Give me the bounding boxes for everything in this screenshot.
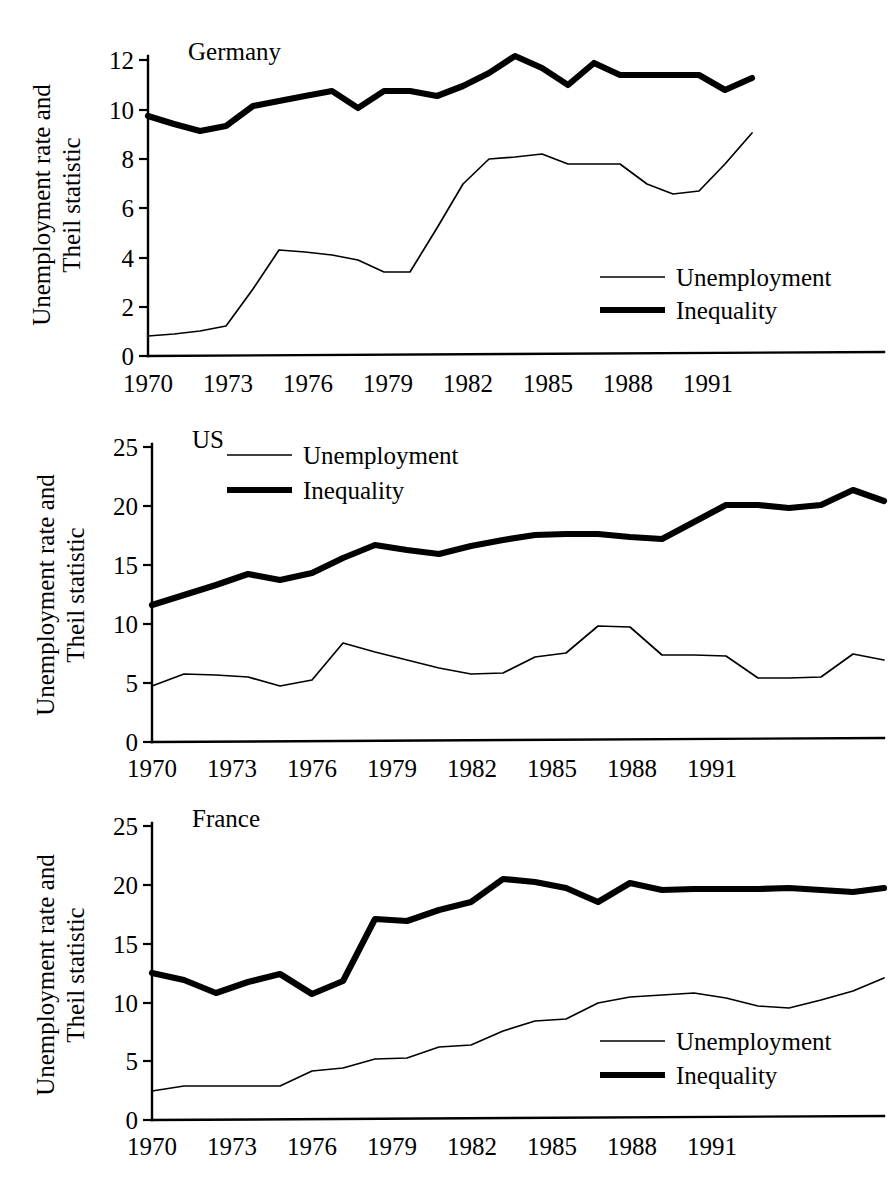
x-tick-label: 1985 (527, 1133, 577, 1160)
chart-panel-germany: 12 10 8 6 4 2 0 1970 1973 1976 1979 1982… (0, 0, 896, 400)
germany-y-tick-labels: 12 10 8 6 4 2 0 (109, 47, 135, 370)
germany-series-inequality (148, 56, 752, 131)
x-tick-label: 1973 (203, 370, 253, 397)
chart-panel-us: 25 20 15 10 5 0 1970 1973 1976 1979 1982… (0, 400, 896, 800)
france-x-axis (152, 1116, 884, 1120)
y-tick-label: 20 (113, 872, 138, 899)
legend-label-unemployment: Unemployment (676, 264, 832, 291)
x-tick-label: 1979 (367, 755, 417, 782)
chart-panel-france: 25 20 15 10 5 0 1970 1973 1976 1979 1982… (0, 795, 896, 1204)
y-axis-label-line1: Unemployment rate and (32, 854, 59, 1096)
legend-label-inequality: Inequality (303, 477, 405, 504)
panel-title-us: US (192, 426, 224, 453)
us-plot-svg: 25 20 15 10 5 0 1970 1973 1976 1979 1982… (0, 400, 896, 800)
france-series-inequality (152, 879, 884, 994)
us-legend: Unemployment Inequality (227, 442, 459, 504)
x-tick-label: 1970 (127, 1133, 177, 1160)
legend-label-unemployment: Unemployment (676, 1028, 832, 1055)
legend-label-inequality: Inequality (676, 1062, 778, 1089)
y-tick-label: 6 (122, 195, 135, 222)
us-x-tick-labels: 1970 1973 1976 1979 1982 1985 1988 1991 (127, 755, 737, 782)
y-tick-label: 0 (126, 1107, 139, 1134)
y-tick-label: 5 (126, 670, 139, 697)
france-plot-svg: 25 20 15 10 5 0 1970 1973 1976 1979 1982… (0, 795, 896, 1204)
y-tick-label: 10 (109, 97, 134, 124)
germany-legend: Unemployment Inequality (600, 264, 832, 324)
x-tick-label: 1985 (523, 370, 573, 397)
x-tick-label: 1985 (527, 755, 577, 782)
y-tick-label: 10 (113, 990, 138, 1017)
triple-line-chart-figure: 12 10 8 6 4 2 0 1970 1973 1976 1979 1982… (0, 0, 896, 1204)
x-tick-label: 1976 (283, 370, 333, 397)
us-y-axis-label: Unemployment rate and Theil statistic (32, 474, 89, 716)
germany-x-tick-labels: 1970 1973 1976 1979 1982 1985 1988 1991 (123, 370, 733, 397)
france-y-axis-label: Unemployment rate and Theil statistic (32, 854, 89, 1096)
germany-y-axis-label: Unemployment rate and Theil statistic (28, 84, 85, 326)
x-tick-label: 1982 (447, 755, 497, 782)
y-tick-label: 12 (109, 47, 134, 74)
y-tick-label: 25 (113, 813, 138, 840)
us-series-unemployment (152, 626, 884, 686)
y-tick-label: 4 (122, 245, 135, 272)
x-tick-label: 1991 (687, 755, 737, 782)
panel-title-germany: Germany (188, 38, 282, 65)
y-tick-label: 2 (122, 294, 135, 321)
x-tick-label: 1979 (367, 1133, 417, 1160)
x-tick-label: 1976 (287, 1133, 337, 1160)
y-tick-label: 0 (122, 343, 135, 370)
panel-title-france: France (192, 805, 260, 832)
x-tick-label: 1970 (123, 370, 173, 397)
y-axis-label-line2: Theil statistic (62, 907, 89, 1042)
y-axis-label-line2: Theil statistic (58, 137, 85, 272)
y-tick-label: 5 (126, 1048, 139, 1075)
y-axis-label-line1: Unemployment rate and (32, 474, 59, 716)
x-tick-label: 1970 (127, 755, 177, 782)
y-tick-label: 15 (113, 552, 138, 579)
x-tick-label: 1982 (443, 370, 493, 397)
x-tick-label: 1982 (447, 1133, 497, 1160)
x-tick-label: 1973 (207, 1133, 257, 1160)
x-tick-label: 1976 (287, 755, 337, 782)
y-tick-label: 8 (122, 146, 135, 173)
legend-label-inequality: Inequality (676, 297, 778, 324)
germany-y-ticks (139, 60, 148, 356)
y-axis-label-line2: Theil statistic (62, 527, 89, 662)
france-x-tick-labels: 1970 1973 1976 1979 1982 1985 1988 1991 (127, 1133, 737, 1160)
us-series-inequality (152, 490, 884, 605)
y-tick-label: 25 (113, 434, 138, 461)
x-tick-label: 1991 (687, 1133, 737, 1160)
germany-plot-svg: 12 10 8 6 4 2 0 1970 1973 1976 1979 1982… (0, 0, 896, 400)
x-tick-label: 1991 (683, 370, 733, 397)
legend-label-unemployment: Unemployment (303, 442, 459, 469)
x-tick-label: 1988 (607, 1133, 657, 1160)
us-y-ticks (143, 447, 152, 742)
y-tick-label: 20 (113, 493, 138, 520)
y-tick-label: 15 (113, 931, 138, 958)
y-tick-label: 10 (113, 611, 138, 638)
us-x-axis (152, 738, 884, 742)
x-tick-label: 1973 (207, 755, 257, 782)
x-tick-label: 1979 (363, 370, 413, 397)
y-axis-label-line1: Unemployment rate and (28, 84, 55, 326)
germany-x-axis (148, 352, 884, 356)
france-y-tick-labels: 25 20 15 10 5 0 (113, 813, 138, 1134)
x-tick-label: 1988 (603, 370, 653, 397)
y-tick-label: 0 (126, 729, 139, 756)
france-legend: Unemployment Inequality (600, 1028, 832, 1089)
us-y-tick-labels: 25 20 15 10 5 0 (113, 434, 138, 756)
x-tick-label: 1988 (607, 755, 657, 782)
germany-series-unemployment (148, 133, 752, 336)
